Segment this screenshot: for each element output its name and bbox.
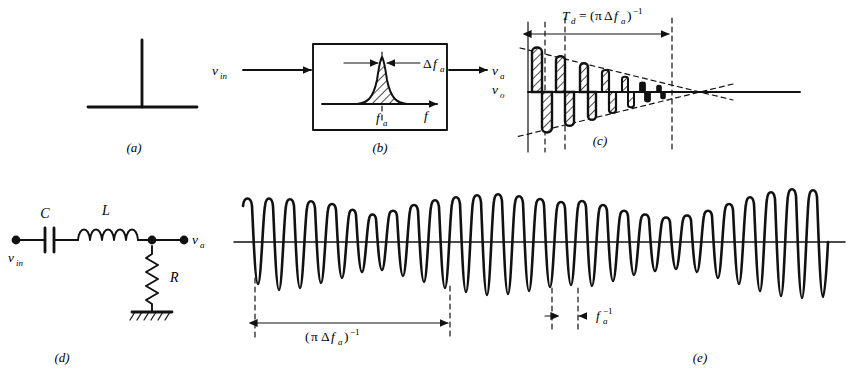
panel-c-lobe-neg-3 xyxy=(588,92,596,120)
panel-c-lobe-pos-3 xyxy=(580,63,588,92)
panel-c-damped-lobes xyxy=(532,48,665,133)
panel-b-output-label-sub: a xyxy=(500,71,505,81)
panel-b-output-label-base: v xyxy=(492,63,498,78)
panel-e-label: (e) xyxy=(693,350,707,365)
panel-b-input-label: v in xyxy=(212,63,228,81)
panel-b-axis-label: f xyxy=(424,108,430,123)
panel-c-output-label-base: v xyxy=(492,82,498,97)
panel-b-resonance-peak xyxy=(357,57,407,104)
panel-d-output-node xyxy=(180,236,189,245)
panel-c-decay-lhs-base: T xyxy=(562,8,571,23)
panel-b-resonator xyxy=(243,44,487,130)
panel-d-capacitor-label: C xyxy=(40,206,50,221)
panel-c-lobe-neg-6 xyxy=(645,92,650,102)
panel-c-ringdown xyxy=(516,18,800,152)
figure-root: (a) v in Δ f a f a f v a (b) v o xyxy=(0,0,859,380)
panel-b-bandwidth-delta: Δ xyxy=(423,56,432,71)
panel-c-decay-sub: a xyxy=(621,16,626,26)
panel-e-beat-sub: a xyxy=(338,337,343,347)
panel-c-lobe-neg-2 xyxy=(565,92,574,126)
panel-c-lobe-neg-7 xyxy=(661,92,665,99)
panel-d-resistor-zigzag xyxy=(146,246,158,312)
panel-c-decay-time-label: T d = ( π Δ f a ) −1 xyxy=(562,6,643,26)
panel-c-output-label: v o xyxy=(492,82,505,100)
panel-d-circuit xyxy=(12,228,189,320)
figure-canvas: (a) v in Δ f a f a f v a (b) v o xyxy=(0,0,859,380)
panel-d-input-label-base: v xyxy=(8,250,14,265)
panel-b-input-label-sub: in xyxy=(220,71,228,81)
panel-e-period-sub: a xyxy=(603,316,608,326)
panel-c-lobe-neg-4 xyxy=(609,92,616,113)
panel-c-decay-delta: Δ xyxy=(604,8,613,23)
panel-d-inductor-label: L xyxy=(101,203,110,218)
panel-c-decay-equals: = xyxy=(579,8,587,23)
panel-b-bandwidth-label: Δ f a xyxy=(423,56,445,74)
panel-b-bandwidth-base: f xyxy=(433,56,439,71)
panel-b-center-freq-base: f xyxy=(376,110,382,125)
panel-c-decay-base: f xyxy=(614,8,620,23)
panel-b-bandwidth-sub: a xyxy=(440,64,445,74)
panel-e-beat-waveform xyxy=(234,189,845,340)
panel-e-beat-base: f xyxy=(331,329,337,344)
panel-c-lobe-pos-5 xyxy=(622,77,628,92)
panel-a-label: (a) xyxy=(126,140,141,155)
panel-d-output-label-base: v xyxy=(192,232,198,247)
panel-e-waveform xyxy=(243,189,828,298)
panel-e-beat-pi: π xyxy=(311,329,318,344)
panel-e-beat-close-paren: ) xyxy=(344,329,349,344)
panel-c-lobe-pos-6 xyxy=(640,83,645,93)
panel-e-beat-delta: Δ xyxy=(321,329,330,344)
panel-c-decay-exponent: −1 xyxy=(633,6,643,16)
panel-d-input-label-sub: in xyxy=(16,258,24,268)
panel-b-center-freq-sub: a xyxy=(383,118,388,128)
panel-b-output-label: v a xyxy=(492,63,505,81)
panel-c-lobe-pos-4 xyxy=(602,70,609,92)
panel-e-beat-period-label: ( π Δ f a ) −1 xyxy=(305,327,360,347)
panel-e-beat-exponent: −1 xyxy=(350,327,360,337)
panel-c-output-label-sub: o xyxy=(500,90,505,100)
panel-c-lobe-neg-5 xyxy=(628,92,634,107)
panel-e-carrier-period-label: f a −1 xyxy=(596,306,613,326)
panel-d-label: (d) xyxy=(54,350,69,365)
panel-d-input-label: v in xyxy=(8,250,24,268)
panel-c-label: (c) xyxy=(593,133,607,148)
panel-e-period-base: f xyxy=(596,308,602,323)
panel-c-decay-lhs-sub: d xyxy=(571,16,576,26)
panel-e-period-exponent: −1 xyxy=(603,306,613,316)
panel-c-lobe-pos-7 xyxy=(657,86,661,93)
panel-c-decay-close-paren: ) xyxy=(627,8,632,23)
panel-d-resistor-label: R xyxy=(169,270,179,285)
panel-e-beat-open-paren: ( xyxy=(305,329,310,344)
panel-c-decay-pi: π xyxy=(595,8,602,23)
panel-c-lobe-neg-1 xyxy=(542,92,552,133)
panel-d-inductor-coil xyxy=(78,230,138,241)
panel-b-input-label-base: v xyxy=(212,63,218,78)
panel-c-lobe-pos-2 xyxy=(556,56,565,92)
panel-d-output-label: v a xyxy=(192,232,205,250)
panel-b-label: (b) xyxy=(372,140,387,155)
panel-c-lobe-pos-1 xyxy=(532,48,542,93)
panel-d-output-label-sub: a xyxy=(200,240,205,250)
panel-a-impulse xyxy=(88,40,197,107)
